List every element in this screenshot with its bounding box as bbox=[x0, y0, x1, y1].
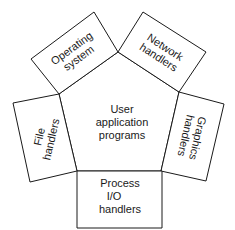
center-label-line-3: programs bbox=[99, 129, 146, 141]
diagram-canvas: User application programs Operating syst… bbox=[0, 0, 235, 230]
process-io-handlers-label-line-1: Process bbox=[100, 177, 140, 189]
center-label-line-2: application bbox=[96, 116, 149, 128]
process-io-handlers-label-line-2: I/O bbox=[107, 190, 122, 202]
center-label-line-1: User bbox=[110, 103, 134, 115]
process-io-handlers-label-line-3: handlers bbox=[99, 203, 142, 215]
